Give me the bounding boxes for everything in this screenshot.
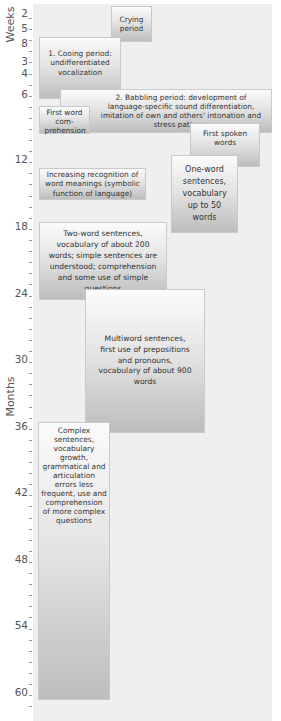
axis-tick-mark xyxy=(29,62,32,63)
axis-tick-mark xyxy=(29,506,32,507)
axis-tick-mark xyxy=(29,74,32,75)
axis-tick-mark xyxy=(29,473,32,474)
axis-tick-mark xyxy=(29,684,32,685)
axis-tick-mark xyxy=(29,96,32,97)
axis-tick-label: 12 xyxy=(8,154,28,165)
stage-text: Multiword sentences, first use of prepos… xyxy=(97,334,193,387)
axis-tick-mark xyxy=(29,196,32,197)
axis-tick-mark xyxy=(29,606,32,607)
axis-tick-mark xyxy=(29,162,32,163)
axis-tick-label: 3 xyxy=(8,56,28,67)
axis-tick-mark xyxy=(29,284,32,285)
axis-tick-label: 5 xyxy=(8,23,28,34)
axis-tick-mark xyxy=(29,407,32,408)
stage-text: One-word sentences, vocabulary up to 50 … xyxy=(183,164,227,224)
axis-tick-mark xyxy=(29,296,32,297)
axis-tick-mark xyxy=(29,673,32,674)
axis-tick-mark xyxy=(29,18,32,19)
axis-tick-mark xyxy=(29,662,32,663)
axis-tick-mark xyxy=(29,118,32,119)
axis-tick-mark xyxy=(29,518,32,519)
axis-tick-mark xyxy=(29,318,32,319)
stage-one-word: One-word sentences, vocabulary up to 50 … xyxy=(171,155,238,233)
axis-tick-label: 2 xyxy=(8,8,28,19)
axis-tick-label: 54 xyxy=(8,620,28,631)
axis-tick-mark xyxy=(29,151,32,152)
axis-tick-mark xyxy=(29,85,32,86)
axis-tick-label: 36 xyxy=(8,421,28,432)
axis-tick-mark xyxy=(29,629,32,630)
axis-tick-mark xyxy=(29,440,32,441)
axis-tick-mark xyxy=(29,218,32,219)
axis-tick-mark xyxy=(29,129,32,130)
axis-tick-label: 18 xyxy=(8,221,28,232)
axis-tick-label: 60 xyxy=(8,687,28,698)
axis-tick-label: 42 xyxy=(8,487,28,498)
axis-tick-mark xyxy=(29,640,32,641)
axis-tick-mark xyxy=(29,273,32,274)
axis-tick-mark xyxy=(29,451,32,452)
axis-tick-mark xyxy=(29,184,32,185)
axis-tick-mark xyxy=(29,484,32,485)
axis-tick-mark xyxy=(29,51,32,52)
axis-tick-mark xyxy=(29,107,32,108)
axis-tick-mark xyxy=(29,540,32,541)
stage-first-word-comprehension: First word com-prehension xyxy=(39,106,90,134)
axis-tick-mark xyxy=(29,462,32,463)
axis-tick-mark xyxy=(29,340,32,341)
axis-tick-mark xyxy=(29,240,32,241)
axis-tick-mark xyxy=(29,395,32,396)
axis-tick-mark xyxy=(29,495,32,496)
stage-complex: Complex sentences, vocabulary growth, gr… xyxy=(38,422,110,700)
stage-text: 1. Cooing period: undifferentiated vocal… xyxy=(45,49,115,76)
axis-tick-mark xyxy=(29,351,32,352)
stage-text: Two-word sentences, vocabulary of about … xyxy=(47,228,159,294)
axis-tick-mark xyxy=(29,140,32,141)
axis-tick-mark xyxy=(29,329,32,330)
axis-tick-label: 4 xyxy=(8,68,28,79)
axis-tick-mark xyxy=(29,429,32,430)
axis-tick-label: 8 xyxy=(8,38,28,49)
axis-tick-mark xyxy=(29,651,32,652)
stage-text: Crying period xyxy=(115,15,149,33)
axis-tick-label: 30 xyxy=(8,354,28,365)
axis-tick-label: 48 xyxy=(8,554,28,565)
axis-tick-mark xyxy=(29,307,32,308)
axis-tick-mark xyxy=(29,29,32,30)
axis-tick-mark xyxy=(29,362,32,363)
axis-tick-mark xyxy=(29,207,32,208)
axis-tick-mark xyxy=(29,595,32,596)
stage-text: Increasing recognition of word meanings … xyxy=(44,170,142,197)
stage-text: First spoken words xyxy=(200,129,250,147)
axis-tick-mark xyxy=(29,551,32,552)
stage-text: First word com-prehension xyxy=(45,108,85,135)
axis-tick-label: 6 xyxy=(8,89,28,100)
axis-tick-mark xyxy=(29,373,32,374)
months-axis-title: Months xyxy=(4,376,17,418)
axis-tick-mark xyxy=(29,229,32,230)
axis-tick-label: 24 xyxy=(8,288,28,299)
axis-tick-mark xyxy=(29,173,32,174)
axis-tick-mark xyxy=(29,529,32,530)
axis-tick-mark xyxy=(29,562,32,563)
axis-tick-mark xyxy=(29,695,32,696)
axis-tick-mark xyxy=(29,706,32,707)
axis-tick-mark xyxy=(29,573,32,574)
stage-word-meanings: Increasing recognition of word meanings … xyxy=(39,168,146,200)
axis-tick-mark xyxy=(29,418,32,419)
stage-text: Complex sentences, vocabulary growth, gr… xyxy=(41,426,107,525)
axis-tick-mark xyxy=(29,584,32,585)
axis-tick-mark xyxy=(29,40,32,41)
axis-tick-mark xyxy=(29,384,32,385)
axis-tick-mark xyxy=(29,617,32,618)
axis-tick-mark xyxy=(29,251,32,252)
stage-multiword: Multiword sentences, first use of prepos… xyxy=(85,289,205,433)
axis-tick-mark xyxy=(29,262,32,263)
